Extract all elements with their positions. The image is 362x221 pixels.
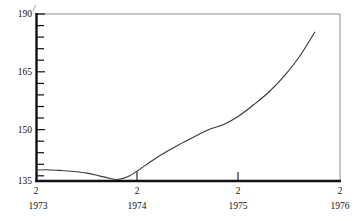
- x-tick-label-1975q2: 2: [236, 186, 241, 196]
- y-axis-minor-ticks: [37, 14, 45, 176]
- plot-frame: [35, 13, 341, 182]
- line-chart: / 190 165 150 135: [0, 0, 362, 221]
- y-tick-label-165: 165: [18, 67, 33, 77]
- y-tick-label-150: 150: [18, 125, 33, 135]
- x-year-label-1976: 1976: [331, 201, 350, 211]
- chart-svg: / 190 165 150 135: [0, 0, 362, 221]
- x-year-label-1973: 1973: [29, 201, 48, 211]
- x-axis-year-labels: 1973 1974 1975 1976: [29, 201, 350, 211]
- y-tick-label-190: 190: [18, 9, 33, 19]
- y-axis-labels: 190 165 150 135: [18, 9, 33, 186]
- y-tick-label-135: 135: [18, 176, 33, 186]
- data-series-line: [37, 32, 315, 179]
- x-year-label-1975: 1975: [229, 201, 248, 211]
- x-tick-label-1976q2: 2: [338, 186, 343, 196]
- x-tick-label-1973q2: 2: [34, 186, 39, 196]
- x-tick-label-1974q2: 2: [135, 186, 140, 196]
- axis-top-mark: /: [32, 4, 36, 13]
- x-axis-quarter-labels: 2 2 2 2: [34, 186, 343, 196]
- x-axis-ticks: [137, 172, 238, 181]
- x-year-label-1974: 1974: [128, 201, 147, 211]
